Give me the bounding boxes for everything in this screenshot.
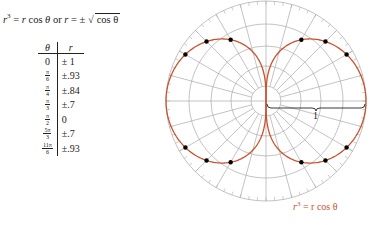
polar-plot [0,0,375,225]
data-point [204,39,208,43]
data-point [323,158,327,162]
curve-label: r3 = r cos θ [293,200,338,212]
data-point [344,52,348,56]
data-point [204,158,208,162]
curve-label-rest: = r cos θ [300,201,337,212]
data-point [299,160,303,164]
data-point [228,160,232,164]
data-point [299,38,303,42]
data-point [228,38,232,42]
data-point [183,145,187,149]
scale-label: 1 [313,110,318,121]
data-point [323,39,327,43]
data-point [344,145,348,149]
data-point [183,52,187,56]
